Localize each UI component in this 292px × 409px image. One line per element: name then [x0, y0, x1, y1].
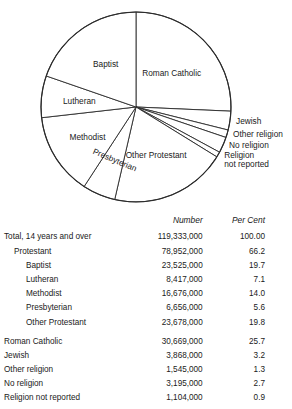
row-label: No religion [0, 379, 141, 393]
row-label: Lutheran [0, 275, 141, 289]
row-label: Religion not reported [0, 393, 141, 407]
table-row[interactable]: Religion not reported1,104,0000.9 [0, 393, 292, 407]
row-per-cent: 2.7 [207, 379, 292, 393]
row-label: Presbyterian [0, 303, 141, 317]
row-label: Total, 14 years and over [0, 232, 141, 246]
pie-label-other-religion: Other religion [233, 129, 283, 139]
row-label: Methodist [0, 289, 141, 303]
pie-label-jewish: Jewish [236, 116, 262, 126]
table-row[interactable]: Lutheran8,417,0007.1 [0, 275, 292, 289]
table-row[interactable]: Presbyterian6,656,0005.6 [0, 303, 292, 317]
row-number: 23,525,000 [141, 261, 207, 275]
statistics-table-container: Number Per Cent Total, 14 years and over… [0, 216, 292, 408]
table-row[interactable]: Roman Catholic30,669,00025.7 [0, 332, 292, 351]
table-row[interactable]: Other religion1,545,0001.3 [0, 365, 292, 379]
pie-label-religion: Religionnot reported [224, 150, 269, 170]
table-header-row: Number Per Cent [0, 216, 292, 232]
table-head: Number Per Cent [0, 216, 292, 232]
row-per-cent: 19.8 [207, 318, 292, 332]
pie-slice[interactable] [136, 12, 231, 111]
row-label: Other Protestant [0, 318, 141, 332]
column-header-label [0, 216, 141, 232]
row-label: Other religion [0, 365, 141, 379]
row-label: Roman Catholic [0, 332, 141, 351]
statistics-table: Number Per Cent Total, 14 years and over… [0, 216, 292, 408]
column-header-per-cent: Per Cent [207, 216, 292, 232]
table-row[interactable]: No religion3,195,0002.7 [0, 379, 292, 393]
pie-chart-svg: Roman CatholicJewishOther religionNo rel… [0, 0, 292, 215]
row-number: 23,678,000 [141, 318, 207, 332]
row-per-cent: 19.7 [207, 261, 292, 275]
pie-label-roman-catholic: Roman Catholic [142, 68, 201, 78]
pie-slice-group [41, 12, 231, 202]
pie-label-baptist: Baptist [93, 59, 119, 69]
row-number: 6,656,000 [141, 303, 207, 317]
row-label: Protestant [0, 247, 141, 261]
row-per-cent: 7.1 [207, 275, 292, 289]
row-per-cent: 5.6 [207, 303, 292, 317]
row-number: 16,676,000 [141, 289, 207, 303]
table-row[interactable]: Other Protestant23,678,00019.8 [0, 318, 292, 332]
row-number: 119,333,000 [141, 232, 207, 246]
row-number: 1,104,000 [141, 393, 207, 407]
row-number: 3,195,000 [141, 379, 207, 393]
row-number: 78,952,000 [141, 247, 207, 261]
row-number: 1,545,000 [141, 365, 207, 379]
row-per-cent: 14.0 [207, 289, 292, 303]
pie-chart-figure: Roman CatholicJewishOther religionNo rel… [0, 0, 292, 215]
row-per-cent: 66.2 [207, 247, 292, 261]
row-label: Baptist [0, 261, 141, 275]
row-per-cent: 25.7 [207, 332, 292, 351]
pie-label-methodist: Methodist [70, 132, 107, 142]
row-per-cent: 1.3 [207, 365, 292, 379]
row-number: 8,417,000 [141, 275, 207, 289]
row-per-cent: 3.2 [207, 351, 292, 365]
table-row[interactable]: Baptist23,525,00019.7 [0, 261, 292, 275]
row-number: 3,868,000 [141, 351, 207, 365]
table-body: Total, 14 years and over119,333,000100.0… [0, 232, 292, 407]
column-header-number: Number [141, 216, 207, 232]
pie-label-other-protestant: Other Protestant [126, 150, 188, 160]
table-row[interactable]: Protestant78,952,00066.2 [0, 247, 292, 261]
table-row[interactable]: Methodist16,676,00014.0 [0, 289, 292, 303]
row-label: Jewish [0, 351, 141, 365]
table-row[interactable]: Jewish3,868,0003.2 [0, 351, 292, 365]
pie-label-lutheran: Lutheran [63, 96, 96, 106]
table-row[interactable]: Total, 14 years and over119,333,000100.0… [0, 232, 292, 246]
pie-label-no-religion: No religion [229, 140, 269, 150]
row-per-cent: 100.00 [207, 232, 292, 246]
row-number: 30,669,000 [141, 332, 207, 351]
row-per-cent: 0.9 [207, 393, 292, 407]
